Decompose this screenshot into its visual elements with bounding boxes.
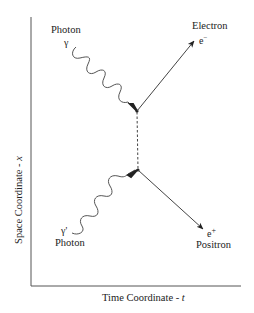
positron-charge: + — [211, 226, 216, 235]
photon-bottom-label: Photon — [55, 238, 85, 249]
positron-label: Positron — [196, 240, 231, 251]
photon-top-label: Photon — [51, 25, 81, 36]
feynman-diagram — [0, 0, 254, 313]
electron-label: Electron — [192, 21, 228, 32]
x-axis-label: Time Coordinate - t — [102, 292, 185, 303]
photon-top-symbol: γ — [64, 38, 68, 48]
electron-charge: − — [203, 34, 207, 42]
propagator-dashed — [137, 112, 138, 169]
y-axis-label: Space Coordinate - x — [13, 156, 24, 244]
y-axis-variable: x — [13, 156, 24, 161]
electron-line — [137, 41, 194, 111]
positron-line — [138, 170, 203, 229]
photon-bottom-symbol: γ' — [61, 226, 67, 236]
x-axis-label-text: Time Coordinate - — [102, 292, 182, 303]
positron-symbol: e+ — [207, 227, 216, 239]
x-axis-variable: t — [182, 292, 185, 303]
photon-wave-bottom — [72, 170, 135, 234]
electron-symbol: e− — [199, 35, 207, 46]
y-axis-label-text: Space Coordinate - — [13, 161, 24, 244]
photon-wave-top — [73, 47, 135, 109]
